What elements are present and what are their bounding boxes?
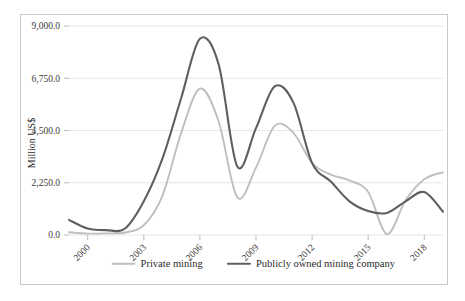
chart-legend: Private miningPublicly owned mining comp… [113,258,396,269]
legend-label: Private mining [141,258,204,269]
x-axis-tick-marks [88,235,425,240]
y-axis-tick-label: 2,250.0 [32,178,61,188]
chart-container: 9,000.06,750.04,500.02,250.00.0 20002003… [20,14,448,285]
line-chart: 9,000.06,750.04,500.02,250.00.0 20002003… [21,15,447,284]
y-axis-tick-labels: 9,000.06,750.04,500.02,250.00.0 [32,21,70,240]
x-axis-tick-label: 2018 [408,242,429,263]
y-axis-tick-label: 6,750.0 [32,74,61,84]
data-series [69,37,443,234]
series-line-publicly-owned-mining-company [69,37,443,231]
y-axis-title: Million US$ [26,118,37,168]
legend-label: Publicly owned mining company [256,258,396,269]
y-axis-tick-label: 0.0 [48,230,60,240]
y-axis-tick-label: 9,000.0 [32,21,61,31]
x-axis-tick-label: 2000 [72,242,93,263]
